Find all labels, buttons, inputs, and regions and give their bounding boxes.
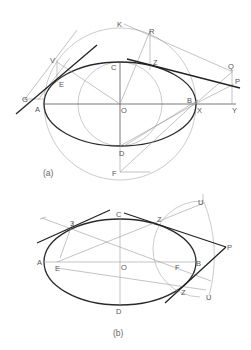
tangent-P-Z-top: [124, 213, 226, 247]
label-K: K: [117, 20, 122, 29]
label-3: 3: [70, 219, 74, 228]
label-E: E: [59, 80, 64, 89]
label-A: A: [37, 258, 42, 267]
label-R: R: [149, 27, 155, 36]
label-O: O: [121, 106, 127, 115]
label-B: B: [196, 259, 201, 268]
label-X: X: [197, 106, 202, 115]
label-P: P: [235, 77, 240, 86]
arc-about-E: [204, 202, 214, 296]
label-F: F: [175, 263, 180, 272]
figure-a: K R V C Z Q P E G A O B X Y D F (a): [16, 20, 240, 180]
label-Q: Q: [228, 62, 234, 71]
line-O-R: [120, 31, 150, 104]
label-U-top: U: [198, 198, 203, 207]
label-F: F: [112, 169, 117, 178]
label-A: A: [35, 105, 40, 114]
label-D: D: [119, 149, 125, 158]
label-Y: Y: [232, 106, 237, 115]
label-Z: Z: [153, 58, 158, 67]
ellipse-construction-diagram: K R V C Z Q P E G A O B X Y D F (a): [0, 0, 251, 350]
label-V: V: [50, 56, 55, 65]
label-G: G: [22, 95, 28, 104]
label-P: P: [227, 243, 232, 252]
figure-b: C 3 Z U P A E O F B Z U D (b): [37, 194, 232, 338]
line-F-X: [120, 100, 198, 172]
caption-a: (a): [43, 168, 54, 178]
label-U-bottom: U: [206, 293, 211, 302]
line-K-Q: [124, 24, 233, 72]
tangent-at-Z: [127, 59, 240, 88]
label-D: D: [116, 307, 122, 316]
label-Z-top: Z: [157, 215, 162, 224]
tick-left-top: [40, 217, 46, 219]
label-C: C: [111, 63, 117, 72]
caption-b: (b): [113, 328, 124, 338]
label-Z-bottom: Z: [181, 288, 186, 297]
label-C: C: [116, 210, 122, 219]
label-B: B: [187, 96, 192, 105]
label-E: E: [55, 264, 60, 273]
label-O: O: [121, 263, 127, 272]
